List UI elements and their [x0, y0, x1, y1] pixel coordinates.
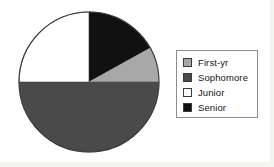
chart-canvas: First-yr Sophomore Junior Senior [0, 0, 274, 167]
legend-label-sophomore: Sophomore [198, 73, 248, 83]
legend: First-yr Sophomore Junior Senior [176, 50, 258, 118]
pie-chart-svg [17, 9, 163, 157]
swatch-junior-icon [183, 88, 192, 97]
pie-slice-group [19, 12, 159, 152]
pie-slice-junior[interactable] [19, 12, 89, 82]
legend-item-sophomore[interactable]: Sophomore [183, 70, 257, 85]
legend-label-senior: Senior [198, 103, 226, 113]
pie-chart [17, 9, 163, 157]
swatch-senior-icon [183, 103, 192, 112]
pie-slice-sophomore[interactable] [19, 82, 159, 152]
legend-item-first-yr[interactable]: First-yr [183, 55, 257, 70]
legend-item-junior[interactable]: Junior [183, 85, 257, 100]
scan-edge-right [270, 0, 274, 167]
legend-label-junior: Junior [198, 88, 224, 98]
swatch-first-yr-icon [183, 58, 192, 67]
swatch-sophomore-icon [183, 73, 192, 82]
legend-label-first-yr: First-yr [198, 58, 228, 68]
legend-item-senior[interactable]: Senior [183, 100, 257, 115]
scan-edge-bottom [0, 162, 274, 167]
